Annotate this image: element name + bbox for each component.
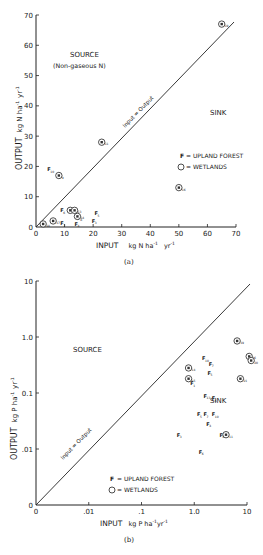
point-label: 7: [207, 415, 209, 419]
x-tick-label: 40: [146, 230, 155, 238]
chart-b-x-ticks: 0.01.11.010: [34, 502, 252, 516]
wetland-point-dot: [178, 186, 180, 188]
x-tick-label: 70: [232, 230, 241, 238]
wetland-point-dot: [239, 378, 241, 380]
point-label: 3: [95, 221, 97, 225]
x-tick-label: 50: [174, 230, 183, 238]
point-label: 11: [229, 435, 233, 439]
wetland-point-dot: [52, 220, 54, 222]
chart-b: 0.01.11.010 0.010.11.010 Input = Output …: [10, 278, 263, 545]
wetland-point-dot: [250, 359, 252, 361]
point-label: 5: [210, 373, 212, 377]
chart-a-source-label: SOURCE: [70, 51, 99, 59]
y-tick-label: 40: [24, 102, 33, 110]
point-label: 3: [180, 435, 182, 439]
point-label: 6: [202, 452, 204, 456]
chart-b-y-label: OUTPUTkg P ha-1yr-1: [10, 377, 19, 460]
point-label: 1: [193, 384, 195, 388]
chart-b-legend: F = UPLAND FOREST = WETLANDS: [109, 475, 174, 493]
wetland-point-dot: [221, 23, 223, 25]
y-tick-label: 0: [29, 502, 33, 510]
chart-b-caption: (b): [124, 536, 134, 544]
y-tick-label: 60: [24, 42, 33, 50]
point-label: 20: [254, 361, 258, 365]
point-label: 7: [63, 224, 65, 228]
x-tick-label: 10: [60, 230, 69, 238]
chart-a-caption: (a): [124, 258, 134, 266]
chart-a-legend: F = UPLAND FOREST = WETLANDS: [178, 152, 243, 170]
point-label: 10: [215, 415, 219, 419]
chart-b-source-label: SOURCE: [73, 346, 102, 354]
x-tick-label: 0: [34, 230, 38, 238]
point-label: 10: [50, 170, 54, 174]
figure: 010203040506070 010203040506070 Input = …: [0, 0, 263, 555]
chart-b-points: F1F10F7F5F13F6F5F7F10F4F3F6F817221819162…: [177, 295, 263, 456]
legend-upland-forest: = UPLAND FOREST: [117, 475, 174, 482]
chart-a-sink-label: SINK: [210, 109, 227, 117]
legend-wetlands: = WETLANDS: [117, 486, 158, 493]
wetland-point-dot: [236, 340, 238, 342]
wetland-point-dot: [225, 434, 227, 436]
x-tick-label: .1: [138, 508, 145, 516]
wetland-point-dot: [42, 223, 44, 225]
y-tick-label: 20: [24, 163, 33, 171]
chart-a-x-label: INPUTkg N ha-1yr-1: [96, 241, 175, 250]
point-label: 9: [62, 176, 64, 180]
wetland-point-dot: [187, 378, 189, 380]
x-tick-label: .01: [83, 508, 94, 516]
y-tick-label: 0: [29, 224, 33, 232]
legend-wetlands: = WETLANDS: [186, 163, 227, 170]
point-label: 19: [240, 341, 244, 345]
x-tick-label: 10: [243, 508, 252, 516]
point-label: 6: [63, 211, 65, 215]
y-tick-label: .01: [22, 446, 33, 454]
point-label: 5: [200, 415, 202, 419]
point-label: 17: [56, 221, 60, 225]
point-label: 14: [192, 368, 196, 372]
chart-a-y-label: OUTPUTkg N ha-1yr-1: [15, 86, 24, 170]
chart-a-source-sublabel: (Non-gaseous N): [53, 62, 106, 70]
point-label: 19: [225, 24, 229, 28]
point-label: 4: [78, 224, 80, 228]
y-tick-label: 10: [24, 193, 33, 201]
point-label: 6: [215, 399, 217, 403]
wetland-point-dot: [101, 141, 103, 143]
point-label: 11: [105, 142, 109, 146]
wetland-point-dot: [187, 367, 189, 369]
point-label: 21: [243, 379, 247, 383]
point-label: 14: [80, 216, 84, 220]
x-tick-label: 1.0: [189, 508, 200, 516]
x-tick-label: 60: [203, 230, 212, 238]
wetland-point-dot: [73, 209, 75, 211]
x-tick-label: 0: [34, 508, 38, 516]
point-label: 5: [98, 214, 100, 218]
point-label: 7: [212, 364, 214, 368]
point-label: 15: [192, 379, 196, 383]
upland-forest-marker-icon: F: [110, 475, 114, 482]
upland-forest-marker-icon: F: [180, 152, 184, 159]
point-label: 18: [46, 224, 50, 228]
chart-b-line-label: Input = Output: [59, 426, 93, 461]
y-tick-label: 10: [24, 278, 33, 286]
chart-a-y-ticks: 010203040506070: [24, 12, 39, 232]
wetlands-marker-icon: [178, 164, 184, 170]
wetlands-marker-icon: [109, 487, 115, 493]
chart-a: 010203040506070 010203040506070 Input = …: [15, 12, 243, 267]
x-tick-label: 30: [117, 230, 126, 238]
chart-a-line-label: Input = Output: [121, 94, 155, 129]
x-tick-label: 20: [89, 230, 98, 238]
chart-a-one-to-one-line: [36, 22, 234, 227]
point-label: 16: [182, 188, 186, 192]
y-tick-label: 70: [24, 12, 33, 20]
point-label: 4: [209, 424, 211, 428]
legend-upland-forest: = UPLAND FOREST: [186, 152, 243, 159]
y-tick-label: 1.0: [22, 334, 33, 342]
wetland-point-dot: [58, 174, 60, 176]
chart-b-x-label: INPUTkg P ha-1yr-1: [100, 519, 168, 528]
y-tick-label: 0.1: [22, 390, 33, 398]
wetland-point-dot: [76, 215, 78, 217]
point-label: 13: [207, 396, 211, 400]
y-tick-label: 30: [24, 133, 33, 141]
y-tick-label: 50: [24, 72, 33, 80]
chart-b-one-to-one-line: [36, 284, 250, 505]
